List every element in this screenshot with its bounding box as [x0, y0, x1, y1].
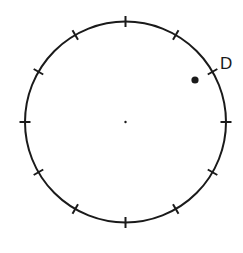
- diagram-canvas: D: [0, 0, 243, 253]
- point-d-label: D: [220, 54, 232, 73]
- center-point: [124, 121, 126, 123]
- point-d: [191, 76, 198, 83]
